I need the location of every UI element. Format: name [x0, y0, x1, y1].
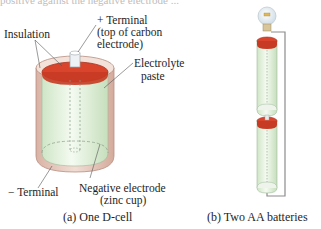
- label-electrolyte-paste: paste: [141, 70, 165, 82]
- caption-panel-b: (b) Two AA batteries: [207, 210, 308, 225]
- label-plus-terminal-detail: (top of carbon: [97, 26, 162, 38]
- label-plus-terminal: + Terminal: [97, 14, 148, 26]
- label-electrolyte: Electrolyte: [134, 57, 184, 69]
- label-minus-terminal: − Terminal: [8, 186, 59, 198]
- label-zinc-cup: (zinc cup): [100, 194, 146, 206]
- label-negative-electrode: Negative electrode: [79, 182, 166, 194]
- caption-panel-a: (a) One D-cell: [63, 210, 132, 225]
- aa-batteries-illustration: [257, 7, 285, 196]
- label-insulation: Insulation: [4, 28, 50, 40]
- label-plus-terminal-detail-2: electrode): [97, 38, 143, 50]
